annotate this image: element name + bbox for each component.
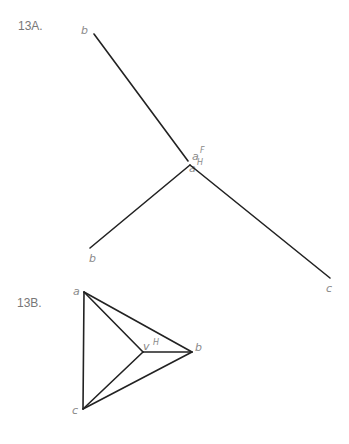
figure-13b: 13B. a b c v H (17, 285, 202, 417)
label-aF-sup: F (200, 146, 205, 155)
edge-a-b (84, 292, 192, 352)
line-b-aH (94, 34, 188, 161)
label-b-bottom: b (89, 252, 96, 265)
line-aF-c (190, 165, 330, 278)
label-aF: a (192, 150, 199, 163)
edge-c-b (83, 352, 192, 409)
edge-a-v (84, 292, 143, 352)
label-c: c (326, 282, 332, 295)
diagram-canvas: 13A. b a H a F b c 13B. a b c v H (0, 0, 349, 444)
label-a: a (73, 285, 80, 298)
figure-13b-title: 13B. (17, 296, 42, 310)
line-aF-b (90, 165, 190, 248)
label-b-top: b (81, 24, 88, 37)
label-c: c (72, 404, 78, 417)
figure-13a-title: 13A. (18, 19, 43, 33)
label-b: b (195, 341, 202, 354)
figure-13a: 13A. b a H a F b c (18, 19, 332, 295)
edge-v-c (83, 352, 143, 409)
label-v-sup: H (153, 338, 159, 347)
edge-a-c (83, 292, 84, 409)
label-v: v (143, 340, 150, 353)
